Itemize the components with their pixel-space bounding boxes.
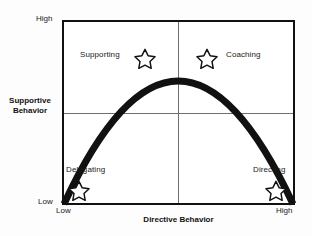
y-axis-title-line1: Supportive <box>2 96 58 106</box>
star-icon <box>68 180 90 201</box>
y-axis-title: Supportive Behavior <box>2 96 58 116</box>
y-axis-tick-high: High <box>36 14 52 23</box>
quadrant-divider-horizontal <box>64 113 293 114</box>
star-icon <box>265 180 287 201</box>
y-axis-tick-low: Low <box>38 197 53 206</box>
star-icon <box>196 48 218 69</box>
quadrant-label-coaching: Coaching <box>226 50 261 59</box>
x-axis-tick-low: Low <box>56 206 71 215</box>
quadrant-label-supporting: Supporting <box>80 50 120 59</box>
x-axis-title: Directive Behavior <box>62 215 295 224</box>
y-axis-title-line2: Behavior <box>2 106 58 116</box>
quadrant-label-delegating: Delegating <box>66 165 105 174</box>
quadrant-label-directing: Directing <box>253 165 285 174</box>
x-axis-tick-high: High <box>276 206 292 215</box>
star-icon <box>134 48 156 69</box>
situational-leadership-diagram: Supporting Coaching Delegating Directing… <box>0 0 312 236</box>
